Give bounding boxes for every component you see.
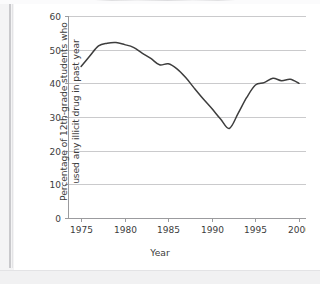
page-left-rule <box>9 2 11 268</box>
x-tick-label-group: 197519801985199019952000 <box>70 225 306 235</box>
line-chart-plot: 0102030405060 197519801985199019952000 <box>14 4 306 270</box>
page-left-edge <box>0 0 14 270</box>
chart-canvas: 0102030405060 197519801985199019952000 P… <box>14 4 306 270</box>
page-bottom-rule <box>0 270 320 271</box>
y-tick-label-40: 40 <box>50 79 62 89</box>
y-tick-label-0: 0 <box>55 214 61 224</box>
x-tick-label-1980: 1980 <box>114 225 137 235</box>
page-bottom-band <box>0 270 320 284</box>
plot-area-background <box>68 16 306 218</box>
y-tick-label-60: 60 <box>50 12 62 22</box>
y-tick-label-20: 20 <box>50 147 62 157</box>
x-tick-label-1995: 1995 <box>244 225 267 235</box>
x-tick-label-2000: 2000 <box>288 225 306 235</box>
x-tick-label-1990: 1990 <box>201 225 224 235</box>
y-tick-group <box>65 17 69 219</box>
x-axis-title: Year <box>14 247 306 258</box>
y-tick-label-30: 30 <box>50 113 62 123</box>
x-tick-label-1985: 1985 <box>157 225 180 235</box>
page-top-text-sliver-ink <box>95 0 235 1</box>
y-tick-label-10: 10 <box>50 180 62 190</box>
page-left-rule-secondary <box>12 2 13 268</box>
y-tick-label-group: 0102030405060 <box>50 12 62 224</box>
y-tick-label-50: 50 <box>50 46 62 56</box>
figure-root: 0102030405060 197519801985199019952000 P… <box>0 0 320 284</box>
x-tick-label-1975: 1975 <box>70 225 93 235</box>
